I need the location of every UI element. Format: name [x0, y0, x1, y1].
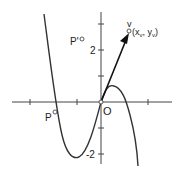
cubic-curve — [44, 14, 138, 166]
point-origin-marker — [99, 100, 103, 104]
point-P-prime-label: P' — [70, 36, 79, 47]
point-P-marker — [53, 110, 57, 114]
point-v-coords-label: (xv, yv) — [132, 27, 158, 38]
vector-arrowhead — [120, 33, 129, 44]
point-P-prime-marker — [80, 37, 84, 41]
origin-label: O — [103, 105, 112, 117]
point-v-marker — [127, 29, 131, 33]
y-tick-label-neg2: -2 — [86, 149, 95, 160]
diagram-canvas: 2 -2 O P P' v (xv, yv) — [0, 0, 177, 173]
point-P-label: P — [45, 112, 52, 123]
y-tick-label-2: 2 — [90, 45, 96, 56]
